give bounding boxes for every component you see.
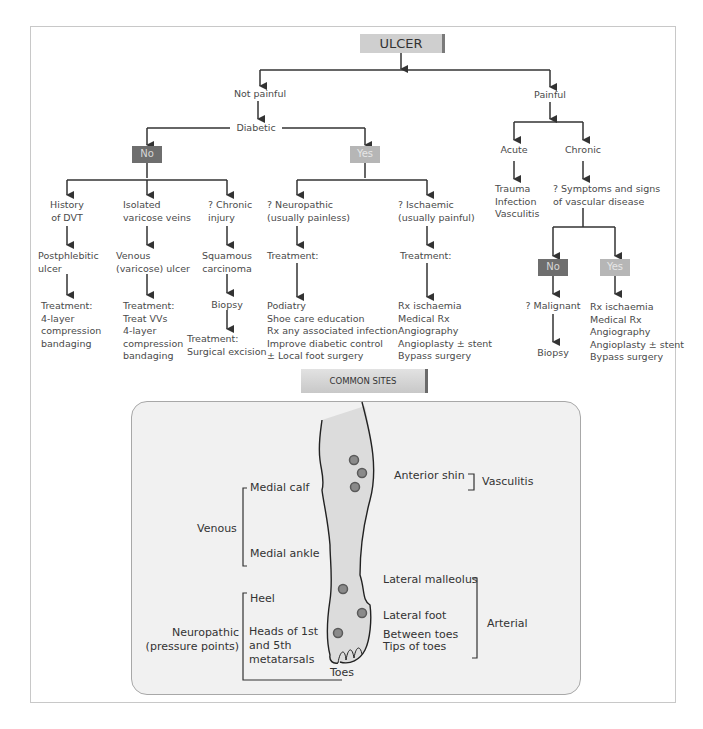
ulcer-marker-shin-3 [351, 483, 360, 492]
ulcer-marker-shin-1 [350, 456, 359, 465]
site-tips-of-toes: Tips of toes [383, 640, 446, 653]
site-medial-calf: Medial calf [250, 481, 309, 494]
group-vasculitis: Vasculitis [482, 475, 533, 488]
site-lateral-malleolus: Lateral malleolus [383, 573, 478, 586]
site-medial-ankle: Medial ankle [250, 547, 320, 560]
leg-illustration [0, 0, 703, 729]
venous-bracket [243, 488, 247, 566]
arterial-bracket [472, 578, 477, 658]
vasculitis-bracket [468, 474, 474, 490]
site-toes: Toes [330, 666, 354, 679]
ulcer-marker-ankle [339, 585, 348, 594]
ulcer-marker-lateral-foot [358, 609, 367, 618]
site-heel: Heel [250, 592, 275, 605]
site-lateral-foot: Lateral foot [383, 609, 446, 622]
group-neuropathic: Neuropathic (pressure points) [144, 626, 239, 654]
group-venous: Venous [197, 522, 237, 535]
ulcer-marker-metatarsal [334, 629, 343, 638]
site-anterior-shin: Anterior shin [394, 469, 465, 482]
group-arterial: Arterial [487, 617, 528, 630]
site-metatarsal-heads: Heads of 1st and 5th metatarsals [249, 625, 318, 667]
ulcer-marker-shin-2 [358, 469, 367, 478]
